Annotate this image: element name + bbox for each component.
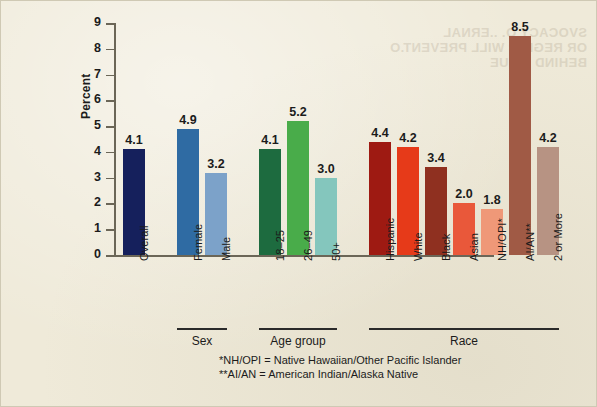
- footnotes: *NH/OPI = Native Hawaiian/Other Pacific …: [219, 353, 461, 381]
- y-tick-label-2: 2: [85, 195, 101, 209]
- bar-value-label: 3.2: [207, 157, 224, 171]
- chart-page: SVOCACY O. ..ERNAL OR REGIS = WILL PREVE…: [0, 0, 597, 407]
- y-tick-1: [106, 229, 114, 231]
- bar-value-label: 1.8: [483, 193, 500, 207]
- y-tick-4: [106, 152, 114, 154]
- y-tick-label-5: 5: [85, 118, 101, 132]
- group-bracket-line: [369, 328, 559, 330]
- y-tick-label-3: 3: [85, 170, 101, 184]
- x-tick-label: 2 or More: [552, 213, 564, 261]
- group-bracket-line: [177, 328, 227, 330]
- y-tick-label-0: 0: [85, 247, 101, 261]
- x-tick-label: NH/OPI*: [496, 218, 508, 261]
- group-bracket-line: [259, 328, 337, 330]
- x-tick-label: Female: [192, 224, 204, 261]
- bar-value-label: 8.5: [511, 20, 528, 34]
- y-tick-3: [106, 178, 114, 180]
- group-label: Age group: [270, 334, 325, 348]
- bar-value-label: 3.0: [317, 162, 334, 176]
- y-tick-8: [106, 49, 114, 51]
- group-label: Race: [450, 334, 478, 348]
- x-tick-label: 26–49: [302, 230, 314, 261]
- x-tick-label: Male: [220, 237, 232, 261]
- group-label: Sex: [192, 334, 213, 348]
- footnote-1: *NH/OPI = Native Hawaiian/Other Pacific …: [219, 353, 461, 367]
- x-tick-label: Overall: [138, 225, 150, 261]
- bar-value-label: 4.4: [371, 126, 388, 140]
- y-tick-2: [106, 203, 114, 205]
- bar-value-label: 5.2: [289, 105, 306, 119]
- bar-value-label: 4.2: [539, 131, 556, 145]
- bar-value-label: 3.4: [427, 151, 444, 165]
- y-tick-7: [106, 75, 114, 77]
- y-tick-label-7: 7: [85, 67, 101, 81]
- x-tick-label: 50+: [330, 242, 342, 261]
- plot-area: 4.14.93.24.15.23.04.44.23.42.01.88.54.2: [114, 23, 494, 255]
- y-tick-label-9: 9: [85, 15, 101, 29]
- bar-value-label: 2.0: [455, 187, 472, 201]
- bar-value-label: 4.1: [125, 133, 142, 147]
- y-tick-6: [106, 100, 114, 102]
- y-tick-0: [106, 255, 114, 257]
- y-tick-label-6: 6: [85, 92, 101, 106]
- x-tick-label: Hispanic: [384, 218, 396, 261]
- footnote-2: **AI/AN = American Indian/Alaska Native: [219, 367, 461, 381]
- bar-value-label: 4.2: [399, 131, 416, 145]
- bar-value-label: 4.1: [261, 133, 278, 147]
- x-tick-label: White: [412, 232, 424, 261]
- y-tick-label-8: 8: [85, 41, 101, 55]
- y-tick-9: [106, 23, 114, 25]
- x-tick-label: AI/AN**: [524, 223, 536, 261]
- x-tick-label: 18–25: [274, 230, 286, 261]
- y-tick-label-1: 1: [85, 221, 101, 235]
- bar-value-label: 4.9: [179, 113, 196, 127]
- y-tick-label-4: 4: [85, 144, 101, 158]
- x-tick-label: Black: [440, 234, 452, 261]
- y-tick-5: [106, 126, 114, 128]
- x-tick-label: Asian: [468, 233, 480, 261]
